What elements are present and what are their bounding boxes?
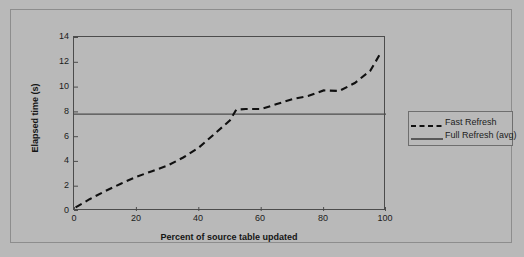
y-tick-6: 6 bbox=[47, 132, 69, 141]
x-axis-tick-labels: 0 20 40 60 80 100 bbox=[73, 214, 385, 228]
series-fast-refresh-line bbox=[76, 54, 380, 207]
x-tick-20: 20 bbox=[121, 214, 151, 223]
legend-label-fast-refresh: Fast Refresh bbox=[443, 117, 497, 127]
y-axis-title: Elapsed time (s) bbox=[30, 48, 40, 188]
y-tick-2: 2 bbox=[47, 181, 69, 190]
y-tick-8: 8 bbox=[47, 107, 69, 116]
y-tick-14: 14 bbox=[47, 32, 69, 41]
figure-frame: 14 12 10 8 6 4 2 0 bbox=[10, 9, 512, 243]
y-tick-4: 4 bbox=[47, 156, 69, 165]
y-tick-12: 12 bbox=[47, 57, 69, 66]
legend-swatch-dashed-icon bbox=[411, 117, 443, 127]
x-tick-60: 60 bbox=[245, 214, 275, 223]
x-tick-40: 40 bbox=[183, 214, 213, 223]
legend-entry-fast-refresh: Fast Refresh bbox=[411, 115, 508, 128]
y-tick-marks bbox=[74, 38, 78, 211]
x-axis-title: Percent of source table updated bbox=[73, 232, 385, 242]
plot-canvas bbox=[74, 37, 386, 211]
x-tick-80: 80 bbox=[308, 214, 338, 223]
legend-label-full-refresh: Full Refresh (avg) bbox=[443, 130, 517, 140]
plot-area bbox=[73, 36, 385, 210]
legend-entry-full-refresh: Full Refresh (avg) bbox=[411, 128, 508, 141]
x-tick-marks bbox=[75, 207, 386, 211]
chart-legend: Fast Refresh Full Refresh (avg) bbox=[408, 111, 513, 146]
x-tick-0: 0 bbox=[59, 214, 89, 223]
legend-swatch-solid-icon bbox=[411, 130, 443, 140]
x-tick-100: 100 bbox=[370, 214, 400, 223]
chart-screenshot: 14 12 10 8 6 4 2 0 bbox=[0, 0, 524, 257]
y-tick-10: 10 bbox=[47, 82, 69, 91]
y-axis-tick-labels: 14 12 10 8 6 4 2 0 bbox=[47, 36, 69, 210]
